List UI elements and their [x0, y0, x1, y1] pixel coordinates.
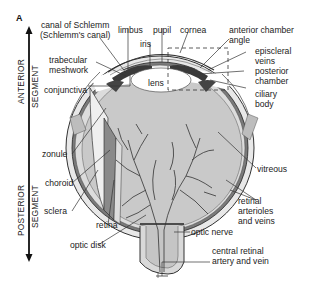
arrow-down-icon — [26, 254, 33, 262]
label-retina: retina — [96, 220, 118, 230]
label-anterior-chamber: anterior chamber — [229, 25, 294, 35]
label-sclera: sclera — [44, 206, 67, 216]
segment-axis: ANTERIOR SEGMENT POSTERIOR SEGMENT — [16, 26, 40, 262]
label-retinal: retinal — [238, 196, 261, 206]
label-vitreous: vitreous — [257, 164, 287, 174]
label-conjunctiva: conjunctiva — [44, 85, 87, 95]
label-angle: angle — [229, 35, 250, 45]
label-lens: lens — [148, 78, 164, 88]
label-veins: veins — [255, 56, 275, 66]
label-cornea: cornea — [180, 25, 206, 35]
label-and-veins: and veins — [238, 216, 275, 226]
label-iris: iris — [140, 39, 151, 49]
label-body: body — [255, 99, 274, 109]
label-episcleral: episcleral — [255, 46, 291, 56]
label-arterioles: arterioles — [238, 206, 273, 216]
label-artery-and-vein: artery and vein — [212, 256, 269, 266]
panel-label: A — [16, 13, 23, 23]
label-central-retinal: central retinal — [212, 246, 264, 256]
arrow-up-icon — [26, 26, 33, 34]
label-meshwork: meshwork — [49, 65, 89, 75]
eye-anatomy-diagram: A ANTERIOR SEGMENT POSTERIOR SEGMENT — [0, 0, 311, 281]
posterior-segment-label: SEGMENT — [30, 185, 40, 228]
label-choroid: choroid — [45, 178, 73, 188]
label-chamber: chamber — [255, 76, 289, 86]
label-canal-of-schlemm: canal of Schlemm — [41, 20, 109, 30]
anterior-segment-label: SEGMENT — [30, 65, 40, 108]
label-optic-disk: optic disk — [70, 240, 107, 250]
label-trabecular: trabecular — [49, 55, 87, 65]
label-posterior: posterior — [255, 66, 289, 76]
label-schlemms-canal: (Schlemm's canal) — [40, 30, 111, 40]
label-pupil: pupil — [153, 25, 171, 35]
label-optic-nerve: optic nerve — [191, 227, 233, 237]
label-ciliary: ciliary — [255, 89, 278, 99]
posterior-label: POSTERIOR — [16, 185, 26, 236]
label-limbus: limbus — [118, 25, 143, 35]
label-zonule: zonule — [42, 149, 68, 159]
anterior-label: ANTERIOR — [16, 59, 26, 104]
